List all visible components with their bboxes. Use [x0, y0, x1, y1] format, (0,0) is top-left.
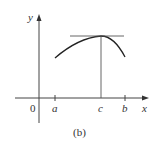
y-axis-label: y: [27, 11, 33, 23]
point-c-label: c: [98, 102, 103, 114]
x-axis-arrow-icon: [142, 96, 149, 101]
figure-caption: (b): [73, 126, 86, 139]
rolle-theorem-diagram: y x 0 a c b (b): [0, 0, 154, 148]
x-axis-label: x: [141, 102, 147, 114]
y-axis: [37, 14, 42, 123]
function-curve: [55, 36, 125, 58]
y-axis-arrow-icon: [37, 14, 42, 21]
x-axis: [15, 96, 149, 101]
point-b-label: b: [122, 102, 128, 114]
point-a-label: a: [52, 102, 58, 114]
origin-label: 0: [30, 102, 36, 114]
